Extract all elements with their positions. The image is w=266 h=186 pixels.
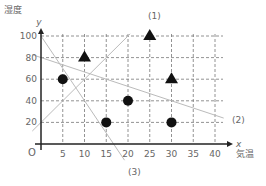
x-tick-label: 20 xyxy=(122,149,134,159)
circle-marker xyxy=(123,96,133,106)
x-axis-arrow-icon xyxy=(227,141,233,147)
circle-marker xyxy=(101,117,111,127)
triangle-marker xyxy=(143,29,156,40)
x-axis-letter: x xyxy=(235,139,242,149)
line-label: (2) xyxy=(232,115,245,125)
y-tick-label: 80 xyxy=(26,53,38,63)
line-label: (3) xyxy=(128,167,141,177)
y-axis-letter: y xyxy=(35,17,42,27)
grid-lines xyxy=(41,34,223,144)
y-tick-label: 20 xyxy=(26,117,38,127)
y-tick-label: 40 xyxy=(26,96,38,106)
data-points xyxy=(58,29,178,127)
x-tick-label: 30 xyxy=(166,149,178,159)
x-tick-label: 25 xyxy=(144,149,155,159)
x-tick-label: 5 xyxy=(60,149,66,159)
circle-marker xyxy=(167,117,177,127)
triangle-marker xyxy=(78,51,91,62)
x-tick-label: 15 xyxy=(101,149,112,159)
x-axis-title: 気温 xyxy=(236,148,254,159)
x-tick-label: 10 xyxy=(79,149,91,159)
origin-label: O xyxy=(28,147,36,158)
y-axis-title: 湿度 xyxy=(4,4,22,15)
circle-marker xyxy=(58,74,68,84)
scatter-chart: (1)(2)(3) 51015202530354020406080100O 湿度… xyxy=(0,0,266,186)
y-tick-label: 100 xyxy=(20,31,37,41)
y-tick-label: 60 xyxy=(26,74,38,84)
triangle-marker xyxy=(165,72,178,83)
line-label: (1) xyxy=(148,11,161,21)
y-axis-arrow-icon xyxy=(38,28,44,34)
axes xyxy=(35,28,233,150)
x-tick-label: 40 xyxy=(209,149,221,159)
x-tick-label: 35 xyxy=(188,149,199,159)
